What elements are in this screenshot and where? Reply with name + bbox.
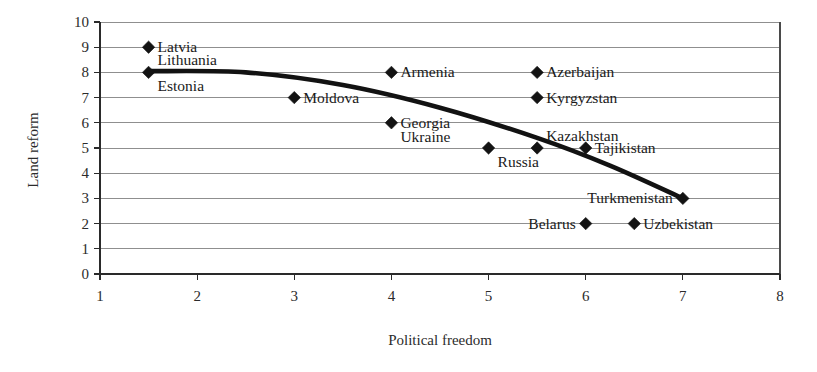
y-tick-label: 5 — [82, 140, 90, 156]
data-point-label: Tajikistan — [595, 139, 656, 156]
chart-canvas: 012345678910 12345678 LatviaLithuaniaEst… — [0, 0, 817, 372]
scatter-chart: 012345678910 12345678 LatviaLithuaniaEst… — [0, 0, 817, 372]
data-point-label: Moldova — [303, 89, 359, 106]
y-tick-label: 6 — [82, 115, 90, 131]
x-tick-label: 4 — [388, 288, 396, 304]
y-tick-label: 7 — [82, 90, 90, 106]
data-point-label: Ukraine — [400, 128, 450, 145]
data-point-label: Belarus — [528, 215, 575, 232]
x-tick-label: 5 — [485, 288, 493, 304]
y-tick-label: 4 — [82, 165, 90, 181]
x-tick-label: 6 — [582, 288, 590, 304]
data-point-label: Estonia — [158, 77, 205, 94]
y-tick-label: 9 — [82, 39, 90, 55]
y-axis-title: Land reform — [25, 112, 41, 188]
data-point-label: Uzbekistan — [643, 215, 713, 232]
y-tick-label: 10 — [74, 14, 89, 30]
y-tick-label: 0 — [82, 266, 90, 282]
x-tick-label: 2 — [193, 288, 201, 304]
data-point-label: Turkmenistan — [587, 189, 673, 206]
y-tick-label: 3 — [82, 190, 90, 206]
data-point-label: Azerbaijan — [546, 63, 614, 80]
y-tick-label: 1 — [82, 241, 90, 257]
x-tick-label: 7 — [679, 288, 687, 304]
data-point-label: Kyrgyzstan — [546, 89, 617, 106]
x-tick-label: 1 — [96, 288, 104, 304]
data-point-label: Armenia — [400, 63, 454, 80]
data-point-label: Lithuania — [158, 51, 218, 68]
y-tick-label: 8 — [82, 64, 90, 80]
x-tick-label: 3 — [291, 288, 299, 304]
chart-background — [0, 0, 817, 372]
x-tick-label: 8 — [776, 288, 784, 304]
data-point-label: Russia — [498, 153, 539, 170]
y-tick-label: 2 — [82, 216, 90, 232]
x-axis-title: Political freedom — [388, 332, 492, 348]
